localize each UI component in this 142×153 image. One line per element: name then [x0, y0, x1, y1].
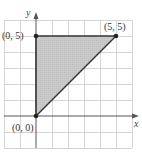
point-5-5	[114, 34, 119, 39]
point-label-0-5: (0, 5)	[2, 30, 24, 42]
point-0-5	[34, 34, 39, 39]
y-axis-arrow-icon	[34, 12, 39, 19]
region-diagram: y x (0, 5) (5, 5) (0, 0)	[0, 0, 142, 153]
x-axis-label: x	[133, 118, 139, 129]
point-label-5-5: (5, 5)	[104, 21, 126, 33]
y-axis-label: y	[25, 7, 31, 18]
point-origin	[34, 114, 39, 119]
point-label-origin: (0, 0)	[12, 122, 34, 134]
